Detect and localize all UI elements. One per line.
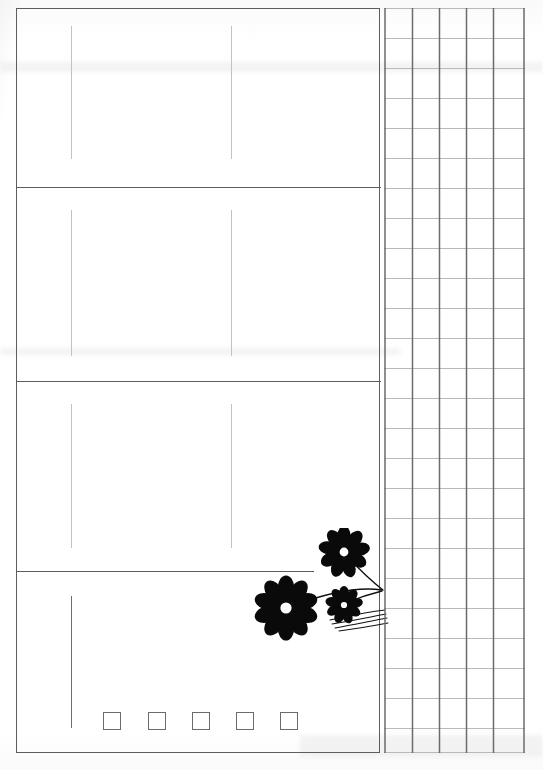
checkbox-3[interactable] xyxy=(192,712,210,730)
checkbox-2[interactable] xyxy=(148,712,166,730)
checkbox-4[interactable] xyxy=(236,712,254,730)
flower-large-center xyxy=(280,602,291,613)
checkbox-1[interactable] xyxy=(103,712,121,730)
flower-illustration xyxy=(252,528,397,648)
flower-small-center xyxy=(341,602,347,608)
graph-grid xyxy=(384,8,525,753)
page-root xyxy=(0,0,543,770)
flower-medium xyxy=(318,528,371,579)
flower-large xyxy=(252,575,319,640)
flower-medium-center xyxy=(340,548,349,557)
checkbox-5[interactable] xyxy=(280,712,298,730)
